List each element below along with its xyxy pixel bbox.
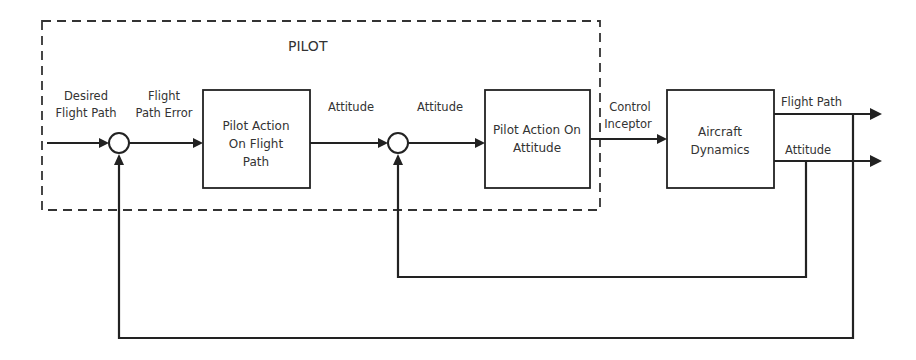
- summing-junction-attitude: [388, 133, 408, 153]
- arrowhead-icon: [378, 138, 388, 148]
- block-pilot-action-attitude: [485, 90, 590, 188]
- desired-flight-path-label-2: Flight Path: [55, 106, 116, 120]
- arrowhead-icon: [870, 155, 882, 167]
- block-3-line-2: Dynamics: [690, 143, 749, 157]
- block-aircraft-dynamics: [667, 90, 774, 188]
- attitude-output-label: Attitude: [785, 143, 831, 157]
- control-inceptor-label-1: Control: [609, 100, 651, 114]
- arrowhead-icon: [393, 154, 403, 165]
- block-2-line-2: Attitude: [513, 141, 561, 155]
- arrowhead-icon: [870, 108, 882, 120]
- arrowhead-icon: [657, 134, 667, 144]
- control-inceptor-label-2: Inceptor: [604, 117, 652, 131]
- arrowhead-icon: [99, 138, 109, 148]
- flight-path-output-label: Flight Path: [781, 95, 842, 109]
- arrowhead-icon: [114, 154, 124, 165]
- arrowhead-icon: [193, 138, 203, 148]
- summing-junction-flight-path: [109, 133, 129, 153]
- arrowhead-icon: [475, 138, 485, 148]
- block-1-line-1: Pilot Action: [222, 119, 289, 133]
- pilot-loop-block-diagram: PILOT Desired Flight Path Flight Path Er…: [0, 0, 916, 360]
- attitude-error-label: Attitude: [417, 100, 463, 114]
- block-3-line-1: Aircraft: [698, 125, 742, 139]
- attitude-command-label: Attitude: [328, 100, 374, 114]
- block-1-line-3: Path: [243, 155, 269, 169]
- block-2-line-1: Pilot Action On: [493, 123, 581, 137]
- pilot-group-label: PILOT: [288, 38, 328, 54]
- block-1-line-2: On Flight: [229, 137, 284, 151]
- flight-path-error-label-1: Flight: [148, 89, 181, 103]
- flight-path-error-label-2: Path Error: [136, 106, 193, 120]
- desired-flight-path-label-1: Desired: [64, 89, 108, 103]
